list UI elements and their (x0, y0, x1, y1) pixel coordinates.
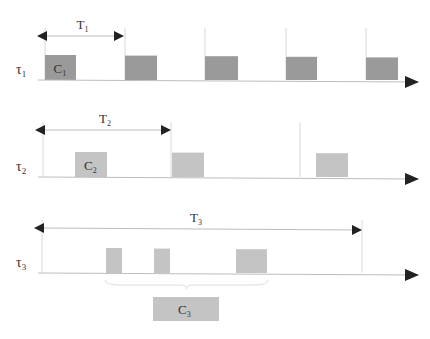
execution-block (316, 153, 348, 177)
period-label: T2 (99, 111, 111, 128)
period-arrow (43, 228, 361, 230)
task-row-1: T1C1τ1 (16, 17, 418, 82)
scheduling-diagram: T1C1τ1T2C2τ2T3τ3C3 (0, 0, 430, 339)
grouping-brace (105, 280, 268, 289)
execution-block (106, 248, 122, 273)
execution-block (366, 57, 398, 80)
time-axis (38, 177, 418, 179)
period-label: T1 (77, 17, 89, 34)
time-axis (38, 273, 418, 275)
period-label: T3 (190, 210, 202, 227)
execution-block (154, 249, 170, 273)
task-row-2: T2C2τ2 (16, 111, 418, 179)
execution-block (286, 57, 317, 80)
task-row-3: T3τ3C3 (16, 210, 418, 321)
execution-block (172, 153, 204, 177)
task-label: τ2 (16, 159, 26, 176)
task-label: τ1 (16, 62, 26, 79)
execution-block (236, 249, 267, 273)
task-label: τ3 (16, 255, 27, 272)
time-axis (38, 80, 418, 82)
execution-block (205, 56, 238, 80)
execution-block (125, 56, 157, 80)
